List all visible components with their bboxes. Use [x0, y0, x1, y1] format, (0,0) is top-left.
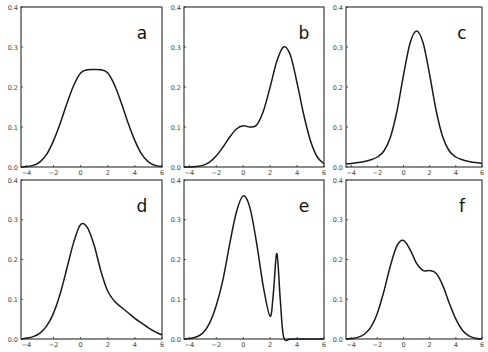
x-tick-label: 4 — [295, 341, 299, 349]
x-tick-label: 2 — [106, 341, 110, 349]
y-tick-label: 0.3 — [333, 216, 343, 224]
y-tick-label: 0.1 — [171, 124, 181, 132]
y-tick-label: 0.0 — [8, 336, 18, 344]
x-tick-label: 4 — [295, 169, 299, 177]
y-tick-label: 0.3 — [8, 44, 18, 52]
panel-label: b — [299, 23, 310, 43]
y-tick-label: 0.0 — [171, 164, 181, 172]
x-tick-label: −4 — [22, 341, 32, 349]
y-tick-label: 0.0 — [171, 336, 181, 344]
x-tick-label: 6 — [322, 341, 326, 349]
x-tick-label: 4 — [454, 341, 458, 349]
x-tick-label: 6 — [160, 341, 164, 349]
y-tick-label: 0.2 — [8, 256, 18, 264]
density-curve — [346, 31, 482, 164]
panel-label: e — [299, 196, 309, 216]
panel-label: d — [137, 196, 148, 216]
density-curve — [184, 47, 324, 167]
density-curve — [346, 240, 482, 339]
x-tick-label: 4 — [133, 341, 137, 349]
x-tick-label: −4 — [22, 169, 32, 177]
density-curve — [21, 69, 162, 167]
x-tick-label: 0 — [241, 169, 245, 177]
y-tick-label: 0.1 — [171, 296, 181, 304]
x-tick-label: 4 — [454, 169, 458, 177]
x-tick-label: 2 — [428, 341, 432, 349]
x-tick-label: −4 — [185, 169, 195, 177]
y-tick-label: 0.3 — [8, 216, 18, 224]
y-tick-label: 0.4 — [171, 4, 181, 12]
panel-a: 0.00.10.20.30.4−4−20246a — [8, 4, 164, 178]
x-tick-label: 2 — [106, 169, 110, 177]
y-tick-label: 0.1 — [8, 124, 18, 132]
panel-c: 0.00.10.20.30.4−4−20246c — [333, 4, 484, 178]
y-tick-label: 0.4 — [8, 4, 18, 12]
y-tick-label: 0.1 — [333, 124, 343, 132]
x-tick-label: 0 — [401, 169, 405, 177]
x-tick-label: 4 — [133, 169, 137, 177]
x-tick-label: 6 — [480, 169, 484, 177]
x-tick-label: −2 — [373, 341, 383, 349]
panel-label: a — [137, 23, 147, 43]
panel-d: 0.00.10.20.30.4−4−20246d — [8, 177, 164, 350]
x-tick-label: 2 — [428, 169, 432, 177]
x-tick-label: 2 — [268, 169, 272, 177]
y-tick-label: 0.3 — [333, 44, 343, 52]
x-tick-label: −4 — [346, 169, 356, 177]
x-tick-label: 6 — [480, 341, 484, 349]
y-tick-label: 0.4 — [171, 177, 181, 185]
y-tick-label: 0.2 — [8, 84, 18, 92]
panel-label: c — [457, 23, 466, 43]
y-tick-label: 0.3 — [171, 216, 181, 224]
x-tick-label: 0 — [79, 169, 83, 177]
y-tick-label: 0.2 — [333, 256, 343, 264]
y-tick-label: 0.1 — [333, 296, 343, 304]
panel-b: 0.00.10.20.30.4−4−20246b — [171, 4, 326, 178]
x-tick-label: 2 — [268, 341, 272, 349]
panel-f: 0.00.10.20.30.4−4−20246f — [333, 177, 484, 350]
y-tick-label: 0.4 — [8, 177, 18, 185]
x-tick-label: 0 — [401, 341, 405, 349]
x-tick-label: 0 — [241, 341, 245, 349]
x-tick-label: −2 — [373, 169, 383, 177]
y-tick-label: 0.2 — [171, 256, 181, 264]
x-tick-label: 0 — [79, 341, 83, 349]
y-tick-label: 0.0 — [333, 164, 343, 172]
x-tick-label: −4 — [346, 341, 356, 349]
x-tick-label: −2 — [49, 169, 59, 177]
y-tick-label: 0.4 — [333, 4, 343, 12]
y-tick-label: 0.0 — [8, 164, 18, 172]
x-tick-label: −2 — [49, 341, 59, 349]
y-tick-label: 0.4 — [333, 177, 343, 185]
x-tick-label: 6 — [322, 169, 326, 177]
x-tick-label: −2 — [212, 341, 222, 349]
panel-label: f — [459, 196, 466, 216]
y-tick-label: 0.2 — [171, 84, 181, 92]
x-tick-label: −2 — [212, 169, 222, 177]
density-curve — [21, 224, 162, 339]
y-tick-label: 0.3 — [171, 44, 181, 52]
x-tick-label: −4 — [185, 341, 195, 349]
y-tick-label: 0.1 — [8, 296, 18, 304]
y-tick-label: 0.2 — [333, 84, 343, 92]
figure-grid: 0.00.10.20.30.4−4−20246a 0.00.10.20.30.4… — [0, 0, 488, 352]
density-curve — [184, 196, 324, 341]
y-tick-label: 0.0 — [333, 336, 343, 344]
panel-e: 0.00.10.20.30.4−4−20246e — [171, 177, 326, 350]
x-tick-label: 6 — [160, 169, 164, 177]
